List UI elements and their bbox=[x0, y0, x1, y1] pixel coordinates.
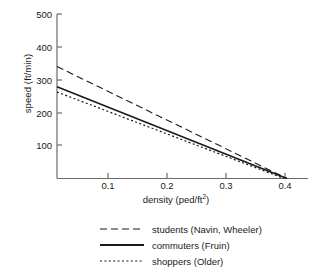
y-axis-ticks bbox=[57, 14, 62, 145]
legend-swatch-dashed-icon bbox=[100, 223, 144, 235]
legend-label-students: students (Navin, Wheeler) bbox=[152, 224, 262, 235]
legend-item-shoppers: shoppers (Older) bbox=[100, 253, 325, 269]
series-shoppers bbox=[57, 92, 284, 179]
x-axis-ticks bbox=[108, 173, 285, 179]
series-commuters bbox=[57, 87, 287, 179]
legend-label-commuters: commuters (Fruin) bbox=[152, 240, 230, 251]
axis-lines bbox=[57, 14, 308, 179]
legend: students (Navin, Wheeler) commuters (Fru… bbox=[100, 221, 325, 269]
legend-swatch-solid-icon bbox=[100, 239, 144, 251]
legend-label-shoppers: shoppers (Older) bbox=[152, 256, 223, 267]
legend-item-commuters: commuters (Fruin) bbox=[100, 237, 325, 253]
legend-swatch-dotted-icon bbox=[100, 255, 144, 267]
series-students bbox=[57, 67, 287, 179]
legend-item-students: students (Navin, Wheeler) bbox=[100, 221, 325, 237]
figure-container: speed (ft/min) density (ped/ft2) 500 400… bbox=[0, 0, 332, 276]
